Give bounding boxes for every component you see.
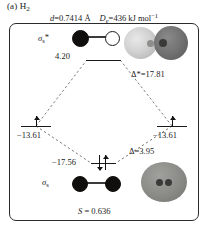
overlap-equals: = [84,206,89,216]
overlap-symbol: S [78,206,82,216]
diagram-stage: σs* 4.20 Δ*=17.81 −13.61 −13.61 Δ=3.95 [0,0,208,232]
splitting-label-antibonding: Δ*=17.81 [131,70,165,79]
atom-sphere-filled-right [105,176,121,192]
energy-value-atomic-right: −13.61 [153,131,177,140]
antibonding-orbital-surface [124,26,188,60]
energy-level-sigma-star [86,60,121,61]
energy-value-sigma: −17.56 [52,158,76,167]
electron-arrow-right [172,116,173,127]
bonding-ball-stick-model [72,174,122,192]
sigma-star: * [45,32,49,42]
sigma-antibonding-symbol: σs* [38,33,49,44]
atom-sphere-filled-left [72,176,88,192]
orbital-lobe-combined [141,162,187,202]
sigma-bonding-symbol: σs [42,178,49,188]
nucleus-bonding-left [156,179,163,186]
electron-arrow-left [36,116,37,127]
nucleus-right [159,39,167,47]
antibonding-ball-stick-model [72,28,122,46]
molecular-orbital-diagram-figure: (a) H2 d=0.7414 ÅDe=436 kJ mol−1 σs* [0,0,208,232]
overlap-value: 0.636 [91,206,110,216]
electron-arrow-down-bonding [99,155,100,170]
energy-value-sigma-star: 4.20 [55,52,70,61]
atom-sphere-open [105,31,120,46]
splitting-label-bonding: Δ=3.95 [129,147,154,156]
energy-value-atomic-left: −13.61 [17,131,41,140]
nucleus-left [147,40,154,47]
atom-sphere-filled [72,30,89,47]
corr-line-left-antibonding [36,61,86,126]
overlap-integral-label: S = 0.636 [78,207,110,216]
sigma-subscript-bonding: s [46,181,49,188]
bonding-orbital-surface [141,162,187,202]
energy-level-sigma [91,163,116,164]
electron-arrow-up-bonding [105,155,106,170]
nucleus-bonding-right [165,179,172,186]
